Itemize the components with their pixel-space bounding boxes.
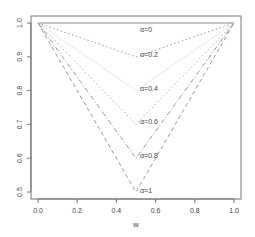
series-layer xyxy=(38,23,234,192)
series-label: α=1 xyxy=(140,187,152,194)
x-tick-label: 0.2 xyxy=(72,207,82,214)
x-tick-label: 0.6 xyxy=(151,207,161,214)
series-line xyxy=(38,23,234,57)
y-tick-label: 0.8 xyxy=(16,86,23,96)
x-axis: 0.00.20.40.60.81.0 xyxy=(33,199,239,214)
series-label: α=0.4 xyxy=(140,85,158,92)
line-chart: α=0α=0.2α=0.4α=0.6α=0.8α=1 0.00.20.40.60… xyxy=(0,0,255,237)
x-axis-label: w xyxy=(132,220,139,229)
x-tick-label: 0.4 xyxy=(112,207,122,214)
y-tick-label: 0.6 xyxy=(16,153,23,163)
y-tick-label: 0.7 xyxy=(16,119,23,129)
y-axis: 0.50.60.70.80.91.0 xyxy=(16,18,31,197)
series-labels: α=0α=0.2α=0.4α=0.6α=0.8α=1 xyxy=(140,26,158,194)
x-tick-label: 0.0 xyxy=(33,207,43,214)
series-label: α=0 xyxy=(140,26,152,33)
x-tick-label: 0.8 xyxy=(190,207,200,214)
series-label: α=0.8 xyxy=(140,152,158,159)
y-tick-label: 0.5 xyxy=(16,187,23,197)
x-tick-label: 1.0 xyxy=(229,207,239,214)
series-label: α=0.2 xyxy=(140,51,158,58)
series-label: α=0.6 xyxy=(140,118,158,125)
plot-frame xyxy=(31,16,241,199)
y-tick-label: 1.0 xyxy=(16,18,23,28)
y-tick-label: 0.9 xyxy=(16,52,23,62)
series-line xyxy=(38,23,234,192)
